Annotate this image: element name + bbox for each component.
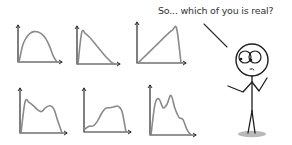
mini-chart-6 — [148, 85, 196, 137]
left-arm — [228, 82, 252, 92]
axis-arrow-icon — [82, 88, 131, 134]
axis-arrow-icon — [148, 85, 196, 137]
mini-chart-3 — [135, 22, 186, 65]
figure-shadow — [238, 131, 266, 137]
distribution-curve — [21, 100, 62, 133]
right-leg — [252, 111, 255, 133]
comic-panel — [0, 0, 292, 145]
distribution-curve — [151, 95, 191, 135]
chart-axes — [18, 25, 62, 62]
chart-axes — [150, 85, 196, 135]
chart-axes — [84, 88, 131, 132]
speech-pointer — [204, 24, 227, 47]
left-leg — [248, 111, 252, 133]
mini-chart-4 — [18, 88, 67, 135]
mini-chart-2 — [75, 26, 120, 66]
chart-grid — [16, 22, 196, 137]
figure-mouth — [250, 69, 254, 70]
distribution-curve — [19, 32, 57, 62]
distribution-curve — [78, 30, 115, 64]
left-pupil — [240, 58, 243, 61]
stick-figure — [228, 44, 268, 137]
right-arm — [252, 78, 267, 91]
mini-chart-5 — [82, 88, 131, 134]
right-pupil — [250, 59, 253, 62]
distribution-curve — [85, 106, 126, 132]
distribution-curve — [138, 26, 181, 63]
mini-chart-1 — [16, 25, 62, 64]
